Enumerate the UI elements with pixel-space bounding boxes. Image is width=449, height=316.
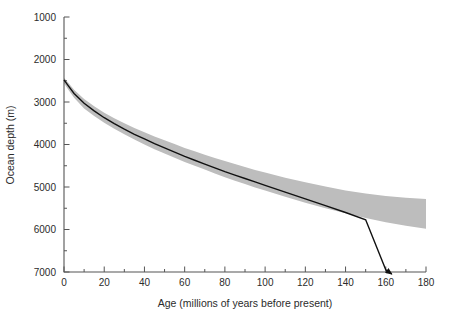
y-tick-label: 5000	[34, 182, 57, 193]
axes-group: 020406080100120140160180 100020003000400…	[34, 12, 435, 289]
x-tick-label: 180	[418, 277, 435, 288]
ocean-depth-vs-age-chart: 020406080100120140160180 100020003000400…	[0, 0, 449, 316]
y-tick-label: 1000	[34, 12, 57, 23]
x-tick-label: 60	[179, 277, 191, 288]
data-band-group	[64, 78, 426, 229]
x-tick-label: 140	[337, 277, 354, 288]
x-tick-label: 160	[377, 277, 394, 288]
y-tick-label: 6000	[34, 224, 57, 235]
y-axis-title: Ocean depth (m)	[4, 106, 16, 185]
x-tick-label: 100	[257, 277, 274, 288]
y-tick-label: 4000	[34, 139, 57, 150]
observed-bathymetry-band	[64, 78, 426, 229]
x-axis-ticks	[64, 267, 426, 273]
x-tick-label: 20	[99, 277, 111, 288]
y-tick-label: 2000	[34, 54, 57, 65]
y-tick-label: 3000	[34, 97, 57, 108]
figure-container: 020406080100120140160180 100020003000400…	[0, 0, 449, 316]
x-axis-title: Age (millions of years before present)	[158, 297, 333, 309]
y-axis-ticks	[64, 17, 70, 272]
x-tick-label: 40	[139, 277, 151, 288]
x-tick-label: 80	[219, 277, 231, 288]
y-tick-label: 7000	[34, 267, 57, 278]
x-tick-label: 0	[61, 277, 67, 288]
x-axis-tick-labels: 020406080100120140160180	[61, 277, 435, 288]
y-axis-tick-labels: 1000200030004000500060007000	[34, 12, 57, 278]
x-tick-label: 120	[297, 277, 314, 288]
